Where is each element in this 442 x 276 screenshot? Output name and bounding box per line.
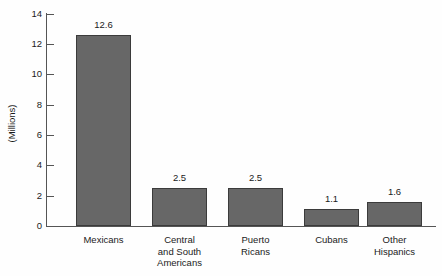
bar-puerto-ricans bbox=[228, 188, 283, 226]
bar-mexicans bbox=[76, 35, 131, 226]
y-tick-label-0-wrap: 0 bbox=[8, 221, 42, 231]
y-tick-label-10: 10 bbox=[12, 69, 42, 79]
y-tick-label-6: 6 bbox=[12, 130, 42, 140]
y-tick-label-14-wrap: 14 bbox=[8, 9, 42, 19]
bar-value-central-and-south-americans: 2.5 bbox=[152, 172, 207, 183]
y-tick-label-2-wrap: 2 bbox=[8, 191, 42, 201]
y-tick-label-10-wrap: 10 bbox=[8, 69, 42, 79]
y-tick-8 bbox=[47, 105, 54, 106]
category-label-puerto-ricans: Puerto Ricans bbox=[218, 234, 293, 257]
category-label-central-and-south-americans-line-1: and South bbox=[142, 246, 217, 258]
bar-central-and-south-americans bbox=[152, 188, 207, 226]
y-axis-line bbox=[46, 13, 47, 227]
y-tick-label-4: 4 bbox=[12, 160, 42, 170]
category-label-central-and-south-americans-line-2: Americans bbox=[142, 257, 217, 269]
category-label-other-hispanics-line-0: Other bbox=[357, 234, 432, 246]
category-label-mexicans: Mexicans bbox=[66, 234, 141, 246]
y-tick-label-12-wrap: 12 bbox=[8, 39, 42, 49]
bar-value-puerto-ricans: 2.5 bbox=[228, 172, 283, 183]
y-tick-label-8: 8 bbox=[12, 100, 42, 110]
bar-value-cubans: 1.1 bbox=[304, 193, 359, 204]
bar-value-mexicans: 12.6 bbox=[76, 19, 131, 30]
category-label-puerto-ricans-line-0: Puerto bbox=[218, 234, 293, 246]
bar-value-other-hispanics: 1.6 bbox=[367, 186, 422, 197]
bar-other-hispanics bbox=[367, 202, 422, 226]
cropped-title-artifact bbox=[0, 0, 442, 4]
bar-chart: 0 2 4 6 8 10 12 14 (Millions) 12.6 2.5 2… bbox=[0, 0, 442, 276]
y-tick-label-12: 12 bbox=[12, 39, 42, 49]
y-tick-10 bbox=[47, 74, 54, 75]
y-tick-14 bbox=[47, 14, 54, 15]
category-label-puerto-ricans-line-1: Ricans bbox=[218, 246, 293, 258]
y-tick-2 bbox=[47, 196, 54, 197]
category-label-central-and-south-americans-line-0: Central bbox=[142, 234, 217, 246]
x-axis-line bbox=[46, 226, 436, 227]
bar-cubans bbox=[304, 209, 359, 226]
y-tick-4 bbox=[47, 165, 54, 166]
y-axis-title: (Millions) bbox=[6, 84, 17, 164]
category-label-central-and-south-americans: Central and South Americans bbox=[142, 234, 217, 269]
category-label-mexicans-line-0: Mexicans bbox=[66, 234, 141, 246]
y-tick-6 bbox=[47, 135, 54, 136]
category-label-other-hispanics: Other Hispanics bbox=[357, 234, 432, 257]
y-tick-label-2: 2 bbox=[12, 191, 42, 201]
category-label-other-hispanics-line-1: Hispanics bbox=[357, 246, 432, 258]
y-tick-label-14: 14 bbox=[12, 9, 42, 19]
y-tick-12 bbox=[47, 44, 54, 45]
y-tick-label-0: 0 bbox=[12, 221, 42, 231]
